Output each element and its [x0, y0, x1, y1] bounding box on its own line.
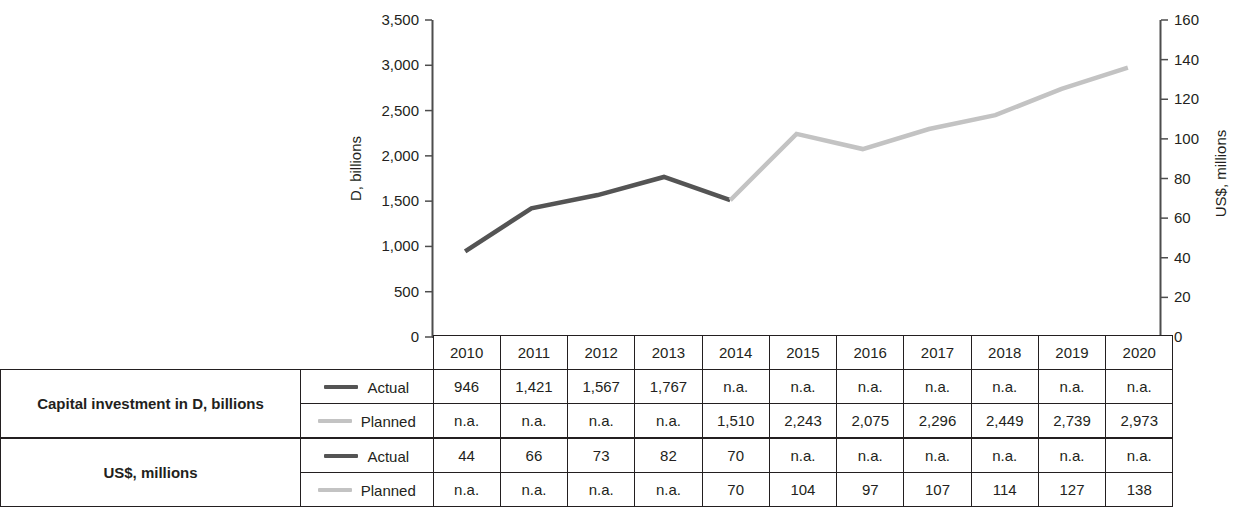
- data-cell: n.a.: [1106, 370, 1173, 404]
- left-tick-label: 3,000: [349, 57, 419, 72]
- data-cell: n.a.: [837, 438, 904, 473]
- series-legend-cell: Actual: [301, 438, 434, 473]
- right-tick-label: 20: [1174, 289, 1224, 304]
- data-cell: 107: [904, 473, 971, 507]
- series-label: Planned: [361, 413, 416, 430]
- data-cell: 138: [1106, 473, 1173, 507]
- data-cell: 70: [702, 438, 769, 473]
- series-lines: [465, 68, 1128, 252]
- group-label-cell: US$, millions: [1, 438, 301, 507]
- series-label: Actual: [367, 448, 409, 465]
- data-cell: 114: [971, 473, 1038, 507]
- data-cell: n.a.: [500, 473, 567, 507]
- data-cell: n.a.: [1106, 438, 1173, 473]
- line-chart: 05001,0001,5002,0002,5003,0003,500 02040…: [0, 0, 1237, 345]
- data-cell: 104: [769, 473, 836, 507]
- year-header-row: 2010201120122013201420152016201720182019…: [1, 336, 1173, 370]
- right-tick-label: 0: [1174, 329, 1224, 344]
- legend-swatch-planned: [318, 419, 352, 423]
- chart-canvas: [0, 0, 1237, 345]
- year-header-cell: 2017: [904, 336, 971, 370]
- data-cell: 44: [433, 438, 500, 473]
- series-legend-cell: Planned: [301, 404, 434, 439]
- data-cell: 2,973: [1106, 404, 1173, 439]
- data-cell: n.a.: [568, 473, 635, 507]
- data-cell: 97: [837, 473, 904, 507]
- right-axis-ticks: [1161, 20, 1168, 337]
- data-cell: 1,510: [702, 404, 769, 439]
- table-row: US$, millionsActual4466738270n.a.n.a.n.a…: [1, 438, 1173, 473]
- data-cell: n.a.: [635, 404, 702, 439]
- data-cell: n.a.: [1038, 438, 1105, 473]
- data-cell: n.a.: [769, 370, 836, 404]
- right-tick-label: 140: [1174, 52, 1224, 67]
- data-cell: 66: [500, 438, 567, 473]
- series-line-planned: [730, 68, 1128, 201]
- data-cell: 70: [702, 473, 769, 507]
- chart-page: 05001,0001,5002,0002,5003,0003,500 02040…: [0, 0, 1237, 510]
- data-cell: 2,739: [1038, 404, 1105, 439]
- series-legend-cell: Planned: [301, 473, 434, 507]
- series-line-actual: [465, 177, 730, 251]
- year-header-cell: 2020: [1106, 336, 1173, 370]
- right-tick-label: 40: [1174, 250, 1224, 265]
- data-cell: n.a.: [568, 404, 635, 439]
- year-header-cell: 2018: [971, 336, 1038, 370]
- legend-swatch-actual: [324, 385, 358, 389]
- data-cell: n.a.: [971, 438, 1038, 473]
- data-cell: 127: [1038, 473, 1105, 507]
- right-axis-title: US$, millions: [1212, 109, 1229, 239]
- data-cell: 73: [568, 438, 635, 473]
- group-label-cell: Capital investment in D, billions: [1, 370, 301, 439]
- data-cell: 1,767: [635, 370, 702, 404]
- data-cell: n.a.: [433, 473, 500, 507]
- data-cell: n.a.: [500, 404, 567, 439]
- year-header-cell: 2012: [568, 336, 635, 370]
- data-cell: 82: [635, 438, 702, 473]
- data-cell: n.a.: [702, 370, 769, 404]
- year-header-cell: 2010: [433, 336, 500, 370]
- data-cell: n.a.: [904, 438, 971, 473]
- data-cell: n.a.: [1038, 370, 1105, 404]
- data-cell: 2,243: [769, 404, 836, 439]
- data-cell: 2,296: [904, 404, 971, 439]
- series-legend-cell: Actual: [301, 370, 434, 404]
- table-row: Capital investment in D, billionsActual9…: [1, 370, 1173, 404]
- left-tick-label: 3,500: [349, 12, 419, 27]
- right-tick-label: 160: [1174, 12, 1224, 27]
- data-cell: 1,567: [568, 370, 635, 404]
- data-cell: n.a.: [904, 370, 971, 404]
- data-cell: n.a.: [635, 473, 702, 507]
- year-header-cell: 2015: [769, 336, 836, 370]
- year-header-cell: 2014: [702, 336, 769, 370]
- year-header-cell: 2013: [635, 336, 702, 370]
- data-cell: 2,449: [971, 404, 1038, 439]
- legend-swatch-actual: [324, 454, 358, 458]
- data-cell: n.a.: [433, 404, 500, 439]
- data-cell: 946: [433, 370, 500, 404]
- left-axis-ticks: [425, 20, 432, 337]
- legend-swatch-planned: [318, 488, 352, 492]
- data-cell: n.a.: [837, 370, 904, 404]
- header-spacer-series: [301, 336, 434, 370]
- year-header-cell: 2016: [837, 336, 904, 370]
- data-cell: 1,421: [500, 370, 567, 404]
- header-spacer-label: [1, 336, 301, 370]
- series-label: Actual: [367, 379, 409, 396]
- right-tick-label: 120: [1174, 91, 1224, 106]
- left-tick-label: 500: [349, 284, 419, 299]
- series-label: Planned: [361, 482, 416, 499]
- data-cell: 2,075: [837, 404, 904, 439]
- data-table: 2010201120122013201420152016201720182019…: [0, 335, 1173, 507]
- left-tick-label: 1,000: [349, 238, 419, 253]
- data-cell: n.a.: [971, 370, 1038, 404]
- year-header-cell: 2011: [500, 336, 567, 370]
- data-cell: n.a.: [769, 438, 836, 473]
- year-header-cell: 2019: [1038, 336, 1105, 370]
- left-axis-title: D, billions: [347, 109, 364, 229]
